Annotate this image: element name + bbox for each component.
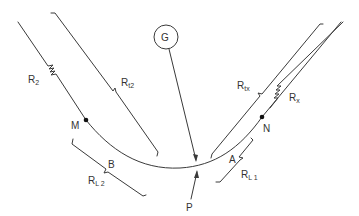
rt2-wire [51, 13, 158, 156]
node-m-label: M [71, 120, 79, 131]
galvanometer-label: G [161, 32, 169, 43]
segment-a-label: A [229, 154, 236, 165]
galvanometer-lead [169, 49, 196, 160]
rtx-branch: Rtx [211, 24, 323, 158]
rx-branch: Rx [270, 22, 343, 108]
galvanometer-arrow-icon [193, 154, 198, 162]
segment-b-label: B [108, 159, 115, 170]
rx-label: Rx [289, 92, 300, 104]
probe: P [186, 170, 199, 213]
rt2-branch: Rt2 [51, 13, 158, 156]
node-n-label: N [263, 123, 270, 134]
node-m-dot [84, 118, 89, 123]
r2-wire [18, 22, 86, 120]
rtx-wire [211, 24, 323, 158]
curved-conductor [86, 22, 341, 168]
rl1-label: RL 1 [241, 169, 258, 181]
rt2-label: Rt2 [121, 77, 134, 89]
rx-wire [270, 22, 343, 108]
node-n-dot [260, 115, 265, 120]
r2-branch: R2 [18, 22, 86, 120]
probe-label: P [186, 202, 193, 213]
rl2-label: RL 2 [88, 175, 105, 187]
rtx-label: Rtx [237, 80, 250, 92]
circuit-diagram: R2 Rt2 M N G P Rtx Rx B RL 2 [0, 0, 359, 216]
probe-arrow-icon [194, 170, 199, 178]
r2-label: R2 [28, 74, 39, 86]
rl2-bracket: B RL 2 [72, 139, 146, 196]
galvanometer: G [154, 25, 198, 162]
